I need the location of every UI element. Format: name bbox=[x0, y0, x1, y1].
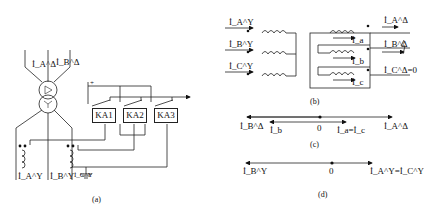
label-ic-star: İ_C^Y bbox=[74, 172, 93, 179]
origin-dot-d bbox=[330, 161, 333, 164]
relay-ka1: KA1 bbox=[92, 108, 116, 123]
transformer-winding-delta bbox=[39, 81, 57, 99]
label-b-ib-delta: İ_B^Δ bbox=[384, 40, 408, 49]
relay-ka3: KA3 bbox=[154, 108, 178, 123]
label-b-ia-delta: İ_A^Δ bbox=[384, 16, 408, 25]
origin-dot-c bbox=[318, 115, 321, 118]
label-d-ib-star: İ_B^Y bbox=[243, 167, 267, 176]
label-ia-delta: İ_A^Δ bbox=[32, 60, 56, 69]
caption-a: (a) bbox=[92, 195, 101, 204]
label-ib-delta: İ_B^Δ bbox=[56, 58, 80, 67]
label-b-ic-star: İ_C^Y bbox=[229, 62, 253, 71]
label-c-origin: 0 bbox=[317, 124, 322, 133]
label-ic: İ_c bbox=[352, 78, 364, 87]
label-b-ib-star: İ_B^Y bbox=[229, 40, 253, 49]
label-ia-star: İ_A^Y bbox=[18, 172, 43, 181]
caption-d: (d) bbox=[318, 190, 327, 199]
label-ib: İ_b bbox=[352, 57, 364, 66]
caption-b: (b) bbox=[310, 97, 319, 106]
label-d-origin: 0 bbox=[329, 167, 334, 176]
label-c-ib-delta: İ_B^Δ bbox=[240, 122, 264, 131]
label-ia: İ_a bbox=[352, 36, 364, 45]
relay-ka2: KA2 bbox=[123, 108, 147, 123]
label-d-ia-ic-star: İ_A^Y=İ_C^Y bbox=[370, 167, 424, 176]
label-c-ia-delta: İ_A^Δ bbox=[384, 122, 408, 131]
label-b-ic-delta: İ_C^Δ=0 bbox=[384, 66, 417, 75]
supply-plus: + bbox=[90, 80, 94, 87]
label-b-ia-star: İ_A^Y bbox=[229, 18, 254, 27]
label-c-ib: İ_b bbox=[270, 126, 282, 135]
label-c-ia-ic: İ_a=İ_c bbox=[337, 126, 365, 135]
label-ib-star: İ_B^Y bbox=[50, 172, 74, 181]
caption-c: (c) bbox=[310, 140, 319, 149]
